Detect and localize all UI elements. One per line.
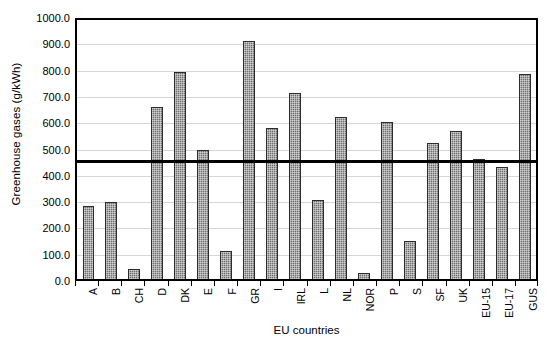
bar-slot <box>192 20 215 279</box>
bar <box>473 159 485 279</box>
x-tick-label: EU-15 <box>480 288 492 318</box>
x-tick-label: D <box>156 288 168 296</box>
x-label-slot: GUS <box>515 288 538 322</box>
x-tick <box>307 281 330 286</box>
x-axis-title: EU countries <box>75 324 538 336</box>
bar-slot <box>284 20 307 279</box>
x-tick-label: SF <box>434 288 446 301</box>
x-label-slot: A <box>75 288 98 322</box>
x-tick-label: EU-17 <box>503 288 515 318</box>
x-tick <box>121 281 144 286</box>
x-label-slot: SF <box>422 288 445 322</box>
bar-slot <box>169 20 192 279</box>
bar <box>335 117 347 279</box>
y-tick-label: 300.0 <box>42 197 70 208</box>
x-tick <box>168 281 191 286</box>
x-tick-label: P <box>388 288 400 295</box>
reference-line <box>75 160 538 163</box>
x-tick <box>144 281 167 286</box>
bar <box>220 251 232 279</box>
x-tick-label: CH <box>133 288 145 303</box>
bar <box>496 167 508 279</box>
bar-slot <box>421 20 444 279</box>
bar <box>197 150 209 280</box>
x-tick <box>422 281 445 286</box>
x-tick <box>492 281 515 286</box>
x-tick-label: UK <box>457 288 469 303</box>
y-tick-label: 1000.0 <box>36 13 70 24</box>
bar-slot <box>375 20 398 279</box>
x-label-slot: IRL <box>283 288 306 322</box>
x-label-slot: D <box>144 288 167 322</box>
bar <box>450 131 462 279</box>
y-tick-label: 500.0 <box>42 144 70 155</box>
bar-slot <box>238 20 261 279</box>
bar <box>381 122 393 279</box>
x-label-slot: E <box>191 288 214 322</box>
x-tick <box>353 281 376 286</box>
bar <box>174 72 186 279</box>
x-tick-label: S <box>411 288 423 295</box>
x-label-slot: B <box>98 288 121 322</box>
y-tick-label: 100.0 <box>42 249 70 260</box>
y-axis-title: Greenhouse gases (g/kWh) <box>10 34 22 234</box>
x-tick <box>399 281 422 286</box>
bar-slot <box>490 20 513 279</box>
bar-slot <box>329 20 352 279</box>
x-tick-label: B <box>110 288 122 295</box>
bar <box>83 206 95 279</box>
x-tick-label: I <box>272 288 284 291</box>
x-tick <box>283 281 306 286</box>
bar-slot <box>307 20 330 279</box>
x-tick <box>75 281 98 286</box>
x-tick <box>214 281 237 286</box>
bar <box>151 107 163 279</box>
bar <box>358 273 370 279</box>
y-tick-label: 900.0 <box>42 39 70 50</box>
x-axis-tick-labels: ABCHDDKEFGRIIRLLNLNORPSSFUKEU-15EU-17GUS <box>75 288 538 322</box>
x-label-slot: EU-15 <box>469 288 492 322</box>
bar-slot <box>146 20 169 279</box>
x-label-slot: UK <box>446 288 469 322</box>
x-tick-label: IRL <box>295 288 307 304</box>
x-label-slot: EU-17 <box>492 288 515 322</box>
y-tick-label: 200.0 <box>42 223 70 234</box>
x-tick-label: NL <box>341 288 353 301</box>
bar <box>404 241 416 279</box>
x-label-slot: F <box>214 288 237 322</box>
x-tick <box>191 281 214 286</box>
bar-series <box>77 20 536 279</box>
y-tick-label: 600.0 <box>42 118 70 129</box>
y-tick-label: 400.0 <box>42 170 70 181</box>
x-tick <box>469 281 492 286</box>
x-label-slot: NL <box>330 288 353 322</box>
x-tick-label: GR <box>249 288 261 304</box>
bar <box>427 143 439 279</box>
bar <box>105 202 117 279</box>
y-tick-label: 0.0 <box>55 276 70 287</box>
bar-slot <box>513 20 536 279</box>
x-tick <box>237 281 260 286</box>
x-label-slot: NOR <box>353 288 376 322</box>
x-tick <box>98 281 121 286</box>
greenhouse-gases-bar-chart: Greenhouse gases (g/kWh) 0.0100.0200.030… <box>0 0 547 347</box>
x-tick <box>446 281 469 286</box>
x-label-slot: I <box>260 288 283 322</box>
x-label-slot: GR <box>237 288 260 322</box>
x-label-slot: CH <box>121 288 144 322</box>
bar <box>519 74 531 279</box>
bar-slot <box>261 20 284 279</box>
x-tick-label: GUS <box>527 288 539 311</box>
x-label-slot: S <box>399 288 422 322</box>
bar-slot <box>100 20 123 279</box>
x-tick-label: DK <box>179 288 191 303</box>
x-tick-label: A <box>87 288 99 295</box>
bar-slot <box>123 20 146 279</box>
bar <box>266 128 278 280</box>
x-tick-label: F <box>226 288 238 294</box>
bar-slot <box>398 20 421 279</box>
bar <box>289 93 301 279</box>
bar-slot <box>77 20 100 279</box>
x-tick <box>515 281 538 286</box>
y-axis-tick-labels: 0.0100.0200.0300.0400.0500.0600.0700.080… <box>26 18 70 281</box>
